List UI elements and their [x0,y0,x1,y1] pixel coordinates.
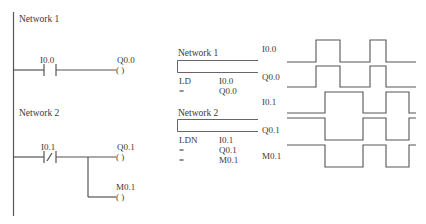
stl-n2-line3-op: = [179,155,184,165]
waveform-i0-1 [287,92,416,113]
waveform-i0-0 [287,40,416,62]
timing-label-i0-1: I0.1 [262,97,276,107]
waveform-q0-0 [287,66,416,87]
timing-label-q0-0: Q0.0 [262,72,280,82]
timing-label-i0-0: I0.0 [262,44,276,54]
stl-n1-line1-operand: I0.0 [219,76,233,86]
stl-n2-line1-op: LDN [179,135,198,145]
ladder-network1-title: Network 1 [19,14,59,24]
stl-n1-line1-op: LD [179,76,191,86]
stl-n2-line2-operand: Q0.1 [219,145,237,155]
stl-network1-box [178,61,259,73]
coil-m0-1-symbol: ( ) [116,192,124,202]
stl-n2-line1-operand: I0.1 [219,135,233,145]
stl-n1-line2-op: = [179,86,184,96]
waveform-q0-1 [287,118,416,140]
contact-operand-i0-1: I0.1 [41,142,55,152]
coil-operand-q0-1: Q0.1 [117,142,135,152]
stl-n2-line3-operand: M0.1 [219,155,238,165]
stl-network1-title: Network 1 [178,48,218,58]
coil-q0-0-symbol: ( ) [116,65,124,75]
stl-network2-box [178,120,259,132]
stl-n2-line2-op: = [179,145,184,155]
waveform-m0-1 [287,145,416,167]
coil-q0-1-symbol: ( ) [116,152,124,162]
timing-label-q0-1: Q0.1 [262,125,280,135]
ladder-network2-title: Network 2 [19,108,59,118]
contact-nc-slash [47,153,52,161]
coil-operand-q0-0: Q0.0 [117,55,135,65]
coil-operand-m0-1: M0.1 [116,182,135,192]
contact-operand-i0-0: I0.0 [40,55,54,65]
stl-network2-title: Network 2 [178,108,218,118]
timing-label-m0-1: M0.1 [262,151,281,161]
stl-n1-line2-operand: Q0.0 [219,86,237,96]
timing-diagram [287,40,416,167]
